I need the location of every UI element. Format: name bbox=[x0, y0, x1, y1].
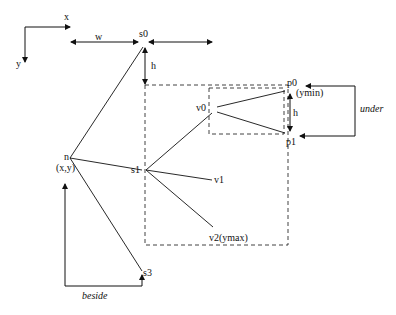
node-n: n bbox=[64, 151, 69, 162]
tree-layout-diagram: x y w h h under bbox=[0, 0, 396, 315]
axes-icon bbox=[25, 27, 70, 62]
node-s0: s0 bbox=[139, 28, 148, 39]
width-label: w bbox=[95, 31, 103, 42]
height-label: h bbox=[151, 60, 156, 71]
node-v1: v1 bbox=[214, 174, 224, 185]
node-p0-note: (ymin) bbox=[296, 87, 323, 99]
node-v0: v0 bbox=[196, 102, 206, 113]
inner-height-label: h bbox=[293, 107, 298, 118]
node-v2: v2(ymax) bbox=[209, 232, 248, 244]
y-axis-label: y bbox=[16, 58, 21, 69]
node-n-coords: (x,y) bbox=[56, 162, 75, 174]
under-label: under bbox=[360, 103, 383, 114]
node-s1: s1 bbox=[131, 164, 140, 175]
node-p1: p1 bbox=[286, 136, 296, 147]
beside-label: beside bbox=[82, 290, 108, 301]
inner-bounding-box bbox=[209, 88, 284, 134]
tree-edges bbox=[70, 47, 285, 271]
node-s3: s3 bbox=[143, 267, 152, 278]
beside-relation-arrow bbox=[65, 184, 142, 286]
outer-bounding-box bbox=[145, 85, 288, 245]
x-axis-label: x bbox=[64, 11, 69, 22]
